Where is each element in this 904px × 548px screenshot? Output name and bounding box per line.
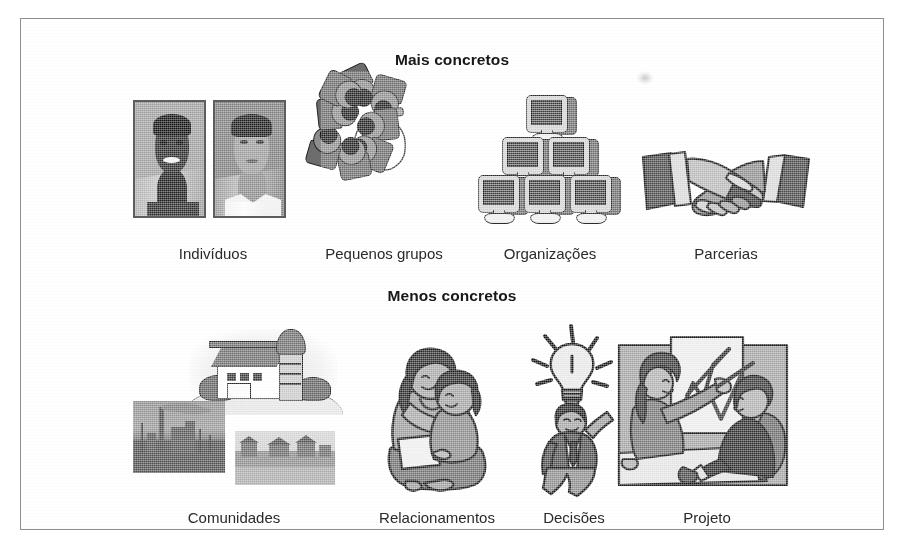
industrial-photo: [133, 401, 225, 473]
caption-individuos: Indivíduos: [179, 245, 247, 262]
caption-parcerias: Parcerias: [694, 245, 757, 262]
lightbulb-idea-person-icon: [519, 324, 629, 499]
scan-artifact-speck: [636, 71, 654, 85]
monitor-pyramid-icon: [476, 89, 621, 221]
caption-pequenos-grupos: Pequenos grupos: [325, 245, 443, 262]
row-heading-mais-concretos: Mais concretos: [21, 51, 883, 69]
caption-relacionamentos: Relacionamentos: [379, 509, 495, 526]
caption-comunidades: Comunidades: [188, 509, 281, 526]
row-heading-menos-concretos: Menos concretos: [21, 287, 883, 305]
caption-projeto: Projeto: [683, 509, 731, 526]
mother-and-child-icon: [376, 341, 506, 499]
handshake-icon: [641, 147, 811, 225]
two-portrait-photos-icon: [129, 94, 299, 219]
figure-frame: Mais concretos: [20, 18, 884, 530]
figure-canvas: Mais concretos: [21, 19, 883, 529]
overhead-meeting-group-icon: [321, 71, 441, 221]
village-town-photo: [235, 431, 335, 485]
barn-and-town-photos-icon: [133, 319, 383, 499]
caption-decisoes: Decisões: [543, 509, 605, 526]
presentation-meeting-icon: [617, 335, 797, 499]
caption-organizacoes: Organizações: [504, 245, 597, 262]
